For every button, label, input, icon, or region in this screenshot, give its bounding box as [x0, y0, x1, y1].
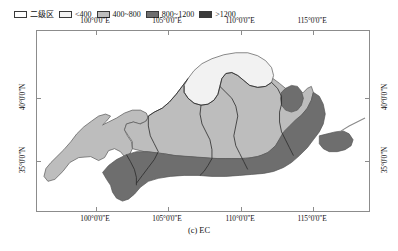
choropleth-map: [37, 31, 369, 211]
legend-swatch-gt-1200: [199, 11, 212, 18]
axis-right-label-35n: 35°0'0"N: [380, 147, 389, 174]
map-legend: 二级区 <400 400~800 800~1200 >1200: [11, 8, 239, 21]
region-eastern-tail: [319, 131, 353, 152]
axis-bottom-label-105e: 105°0'0"E: [152, 214, 181, 223]
axis-right-label-40n: 40°0'0"N: [380, 84, 389, 111]
axis-left-label-40n: 40°0'0"N: [18, 84, 27, 111]
axis-bottom-label-110e: 110°0'0"E: [225, 214, 254, 223]
legend-swatch-lt-400: [59, 11, 72, 18]
map-plot-area: [36, 30, 370, 212]
axis-bottom-label-115e: 115°0'0"E: [297, 214, 326, 223]
region-northeast-connector: [341, 118, 365, 131]
axis-top-label-110e: 110°0'0"E: [225, 16, 254, 25]
legend-item-secondary-zone: 二级区: [14, 10, 54, 19]
axis-bottom-label-100e: 100°0'0"E: [80, 214, 109, 223]
axis-top-label-115e: 115°0'0"E: [297, 16, 326, 25]
axis-top-label-100e: 100°0'0"E: [80, 16, 109, 25]
figure-panel: 二级区 <400 400~800 800~1200 >1200 100°0'0"…: [0, 0, 398, 251]
legend-label-secondary-zone: 二级区: [30, 10, 54, 19]
figure-caption: (c) EC: [0, 226, 398, 235]
axis-left-label-35n: 35°0'0"N: [18, 147, 27, 174]
axis-top-label-105e: 105°0'0"E: [152, 16, 181, 25]
legend-swatch-secondary-zone: [14, 11, 27, 18]
legend-label-400-800: 400~800: [113, 10, 141, 19]
